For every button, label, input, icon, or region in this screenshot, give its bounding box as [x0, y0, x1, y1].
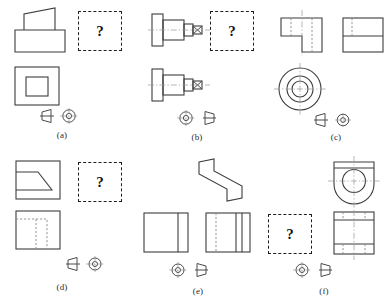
panel-f-missing-view-box[interactable]: ? [268, 214, 312, 254]
panel-a-top-view [13, 65, 69, 111]
panel-f-projection-symbol [292, 262, 334, 280]
panel-c-top-view [270, 62, 332, 118]
question-mark-b: ? [228, 24, 236, 39]
panel-label-f: (f) [304, 286, 344, 296]
panel-e: (e) [128, 152, 256, 305]
panel-b-front-view [148, 10, 214, 52]
panel-a-missing-view-box[interactable]: ? [78, 11, 122, 51]
panel-e-side-view [204, 210, 256, 258]
panel-d: ? (d) [0, 152, 130, 305]
panel-d-missing-view-box[interactable]: ? [78, 162, 122, 202]
panel-f-top-view [326, 210, 382, 260]
panel-a-projection-symbol [40, 108, 82, 126]
circles-glyph [177, 110, 195, 126]
panel-a: ? (a) [0, 0, 130, 150]
panel-label-c: (c) [316, 132, 356, 142]
panel-label-a: (a) [42, 130, 82, 140]
panel-c-front-view [278, 8, 336, 56]
panel-e-pictorial-view [196, 156, 256, 206]
panel-e-front-view [142, 210, 194, 258]
panel-b-second-view [148, 65, 214, 107]
panel-a-front-view [13, 6, 75, 58]
panel-d-projection-symbol [66, 256, 108, 274]
panel-label-d: (d) [42, 282, 82, 292]
panel-f-front-view [326, 156, 382, 208]
circles-glyph [169, 262, 187, 278]
circles-glyph [293, 262, 311, 278]
panel-c: (c) [256, 0, 383, 150]
cone-glyph [203, 112, 216, 125]
cone-glyph [66, 258, 80, 271]
panel-c-projection-symbol [314, 112, 356, 130]
panel-d-top-view [14, 208, 66, 254]
circles-glyph [335, 113, 351, 127]
circles-glyph [60, 108, 78, 124]
panel-label-e: (e) [178, 286, 218, 296]
cone-glyph [40, 110, 54, 123]
circles-glyph [86, 256, 104, 272]
panel-e-projection-symbol [168, 262, 210, 280]
panel-f: ? (f) [256, 152, 383, 305]
panel-b-projection-symbol [176, 110, 218, 128]
question-mark-f: ? [286, 227, 294, 242]
question-mark-d: ? [96, 175, 104, 190]
panel-c-side-view [341, 8, 387, 56]
panel-b: ? (b) [128, 0, 256, 150]
question-mark-a: ? [96, 24, 104, 39]
cone-glyph [195, 264, 208, 277]
panel-label-b: (b) [177, 132, 217, 142]
panel-b-missing-view-box[interactable]: ? [210, 11, 254, 51]
cone-glyph [319, 264, 332, 277]
panel-d-front-view [14, 158, 66, 204]
cone-glyph [314, 114, 328, 127]
